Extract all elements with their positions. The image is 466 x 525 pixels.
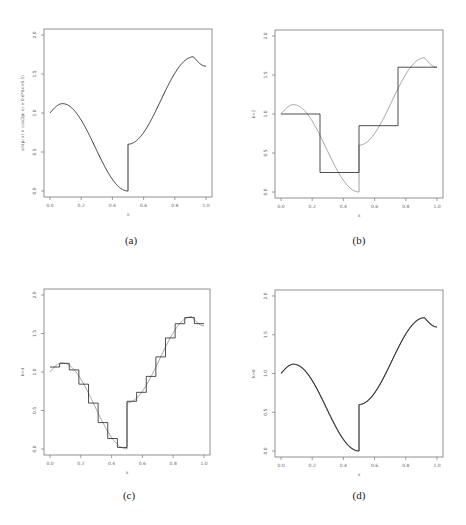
x-axis-label: x [358,472,361,477]
panel-a: 0.00.20.40.60.81.00.00.51.01.52.0xsin(pi… [20,29,212,217]
y-axis-label: sin(pi x) + cos(2pi x) + 0.6*I(x>0.5) [20,75,25,151]
x-tick-label: 0.0 [46,461,53,466]
x-tick-label: 1.0 [202,203,209,208]
caption-d: (d) [339,489,379,501]
y-tick-label: 2.0 [263,32,268,39]
y-tick-label: 1.5 [263,331,268,338]
figure-canvas: 0.00.20.40.60.81.00.00.51.01.52.0xsin(pi… [0,0,466,525]
x-tick-label: 0.4 [108,461,115,466]
y-tick-label: 1.5 [32,70,37,77]
x-tick-label: 1.0 [433,463,440,468]
y-tick-label: 2.0 [263,292,268,299]
x-tick-label: 0.0 [277,463,284,468]
y-tick-label: 0.5 [263,149,268,156]
x-tick-label: 0.2 [309,204,316,209]
x-tick-label: 0.6 [371,463,378,468]
y-tick-label: 0.5 [32,407,37,414]
x-tick-label: 0.8 [402,463,409,468]
panel-c: 0.00.20.40.60.81.00.00.51.01.52.0xk=4 [20,289,210,475]
y-tick-label: 2.0 [32,31,37,38]
y-tick-label: 2.0 [32,291,37,298]
y-tick-label: 1.0 [263,110,268,117]
x-tick-label: 0.0 [46,203,53,208]
x-tick-label: 1.0 [200,461,207,466]
step-approximation [50,318,204,448]
y-tick-label: 0.0 [32,445,37,452]
y-tick-label: 1.0 [32,109,37,116]
y-tick-label: 0.0 [32,187,37,194]
x-tick-label: 0.2 [77,461,84,466]
step-approximation [281,67,437,172]
caption-a: (a) [111,234,151,246]
x-tick-label: 0.8 [170,461,177,466]
x-tick-label: 0.2 [309,463,316,468]
y-tick-label: 0.5 [263,409,268,416]
x-tick-label: 0.0 [277,204,284,209]
x-axis-label: x [358,213,361,218]
y-tick-label: 1.5 [32,330,37,337]
x-axis-label: x [126,470,129,475]
caption-b: (b) [339,234,379,246]
caption-c: (c) [109,489,149,501]
y-tick-label: 0.0 [263,188,268,195]
x-tick-label: 1.0 [433,204,440,209]
y-axis-label: k=8 [251,369,256,378]
y-tick-label: 0.0 [263,447,268,454]
y-axis-label: k=4 [20,367,25,376]
x-tick-label: 0.6 [139,461,146,466]
panel-d: 0.00.20.40.60.81.00.00.51.01.52.0xk=8 [251,290,443,477]
true-function-curve [50,57,206,191]
panel-b: 0.00.20.40.60.81.00.00.51.01.52.0xk=2 [251,30,443,218]
x-tick-label: 0.2 [78,203,85,208]
y-tick-label: 1.0 [32,368,37,375]
x-tick-label: 0.4 [340,463,347,468]
x-tick-label: 0.6 [371,204,378,209]
x-tick-label: 0.6 [140,203,147,208]
y-tick-label: 1.0 [263,370,268,377]
x-tick-label: 0.8 [402,204,409,209]
y-axis-label: k=2 [251,109,256,118]
step-approximation [281,318,437,451]
y-tick-label: 0.5 [32,148,37,155]
x-tick-label: 0.4 [109,203,116,208]
x-tick-label: 0.4 [340,204,347,209]
x-axis-label: x [127,212,130,217]
y-tick-label: 1.5 [263,71,268,78]
x-tick-label: 0.8 [171,203,178,208]
